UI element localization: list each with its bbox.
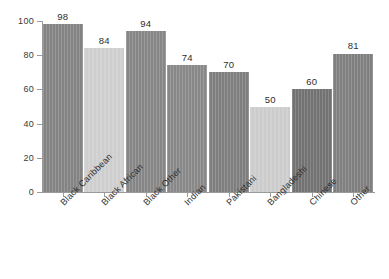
y-tick-label: 80 — [4, 51, 34, 60]
y-tick-label: 40 — [4, 119, 34, 128]
bar-value-label: 84 — [76, 36, 132, 46]
bar — [209, 72, 249, 192]
bar-value-label: 81 — [325, 41, 381, 51]
bar-chart: 020406080100 9884947470506081 Black Cari… — [0, 0, 389, 279]
bar-value-label: 50 — [242, 95, 298, 105]
y-tick-label: 60 — [4, 85, 34, 94]
bar — [333, 54, 373, 193]
bar-value-label: 98 — [35, 12, 91, 22]
bar-value-label: 94 — [118, 19, 174, 29]
bar — [43, 24, 83, 192]
y-tick-label: 0 — [4, 188, 34, 197]
bar-value-label: 60 — [284, 77, 340, 87]
y-tick-label: 100 — [4, 17, 34, 26]
bar-value-label: 70 — [201, 60, 257, 70]
y-tick-label: 20 — [4, 153, 34, 162]
